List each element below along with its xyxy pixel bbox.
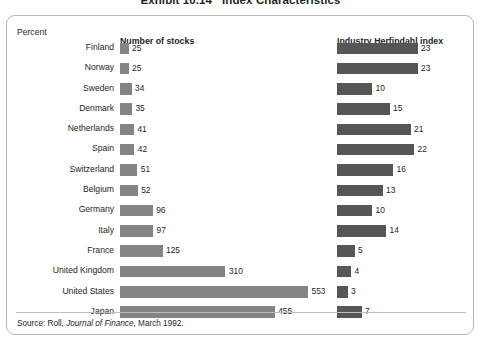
number-of-stocks-bar-value: 97 [153,225,166,237]
herfindahl-bar-group: 13 [337,185,395,197]
number-of-stocks-bar-value: 34 [132,83,145,95]
herfindahl-bar-group: 21 [337,124,423,136]
number-of-stocks-bar-group: 42 [120,144,147,156]
number-of-stocks-bar-group: 34 [120,83,144,95]
herfindahl-bar-group: 10 [337,83,385,95]
country-label: Belgium [7,184,114,194]
country-label: Spain [7,143,114,153]
number-of-stocks-bar [120,205,153,217]
number-of-stocks-bar-value: 25 [129,63,142,75]
herfindahl-bar [337,124,411,136]
herfindahl-bar-value: 3 [348,286,356,298]
herfindahl-bar-value: 16 [393,164,406,176]
number-of-stocks-bar-value: 42 [134,144,147,156]
herfindahl-bar [337,83,372,95]
number-of-stocks-bar-group: 35 [120,103,145,115]
country-label: Sweden [7,83,114,93]
number-of-stocks-bar [120,164,137,176]
number-of-stocks-bar [120,245,163,257]
herfindahl-bar [337,205,372,217]
herfindahl-bar [337,164,393,176]
number-of-stocks-bar-group: 310 [120,266,243,278]
herfindahl-bar-group: 5 [337,245,363,257]
country-label: Denmark [7,103,114,113]
page-title: Exhibit 10.14Index Characteristics [0,0,481,6]
chart-panel: Percent Number of stocks Industry Herfin… [6,15,474,335]
number-of-stocks-bar [120,63,129,75]
herfindahl-bar [337,245,355,257]
number-of-stocks-bar [120,83,132,95]
source-prefix: Source: Roll, [17,319,64,328]
herfindahl-bar-value: 4 [351,266,359,278]
number-of-stocks-bar [120,144,134,156]
number-of-stocks-bar-group: 97 [120,225,166,237]
exhibit-title-text: Index Characteristics [222,0,340,6]
herfindahl-bar-group: 4 [337,266,359,278]
herfindahl-bar-group: 3 [337,286,356,298]
number-of-stocks-bar-group: 553 [120,286,326,298]
country-label: Switzerland [7,164,114,174]
herfindahl-bar-value: 10 [372,205,385,217]
chart-rows: Finland2523Norway2523Sweden3410Denmark35… [7,38,475,322]
number-of-stocks-bar-value: 35 [132,103,145,115]
herfindahl-bar-group: 14 [337,225,399,237]
herfindahl-bar-value: 23 [418,63,431,75]
herfindahl-bar-group: 22 [337,144,427,156]
chart-row: United States5533 [7,282,475,302]
chart-row: Switzerland5116 [7,160,475,180]
number-of-stocks-bar-group: 96 [120,205,165,217]
number-of-stocks-bar [120,225,153,237]
source-suffix: , March 1992. [134,319,184,328]
number-of-stocks-bar-value: 51 [137,164,150,176]
herfindahl-bar-value: 10 [372,83,385,95]
herfindahl-bar-group: 15 [337,103,402,115]
country-label: Finland [7,42,114,52]
chart-row: Italy9714 [7,221,475,241]
number-of-stocks-bar-value: 96 [153,205,166,217]
country-label: Italy [7,225,114,235]
chart-row: United Kingdom3104 [7,261,475,281]
chart-row: Netherlands4121 [7,119,475,139]
number-of-stocks-bar [120,43,129,55]
number-of-stocks-bar [120,185,138,197]
herfindahl-bar-value: 23 [418,43,431,55]
country-label: United States [7,286,114,296]
source-note: Source: Roll, Journal of Finance, March … [17,319,184,328]
country-label: Japan [7,306,114,316]
number-of-stocks-bar [120,286,308,298]
country-label: Germany [7,204,114,214]
herfindahl-bar-value: 15 [390,103,403,115]
herfindahl-bar-value: 13 [383,185,396,197]
chart-row: France1255 [7,241,475,261]
herfindahl-bar [337,144,414,156]
country-label: Norway [7,62,114,72]
number-of-stocks-bar [120,266,225,278]
herfindahl-bar [337,266,351,278]
herfindahl-bar-group: 23 [337,63,430,75]
source-journal-name: Journal of Finance [66,319,133,328]
source-divider [16,312,466,313]
chart-row: Norway2523 [7,58,475,78]
herfindahl-bar-value: 22 [414,144,427,156]
herfindahl-bar [337,63,418,75]
exhibit-number: Exhibit 10.14 [140,0,212,6]
herfindahl-bar [337,103,390,115]
number-of-stocks-bar-value: 25 [129,43,142,55]
number-of-stocks-bar-value: 41 [134,124,147,136]
number-of-stocks-bar-group: 41 [120,124,147,136]
chart-row: Belgium5213 [7,180,475,200]
axis-unit-label: Percent [17,27,47,37]
herfindahl-bar [337,286,348,298]
herfindahl-bar-value: 5 [355,245,363,257]
number-of-stocks-bar-value: 52 [138,185,151,197]
number-of-stocks-bar-value: 553 [308,286,325,298]
number-of-stocks-bar-group: 125 [120,245,180,257]
herfindahl-bar [337,185,383,197]
herfindahl-bar-group: 10 [337,205,385,217]
herfindahl-bar-group: 23 [337,43,430,55]
herfindahl-bar [337,225,386,237]
chart-row: Finland2523 [7,38,475,58]
number-of-stocks-bar [120,103,132,115]
number-of-stocks-bar-group: 51 [120,164,150,176]
country-label: France [7,245,114,255]
